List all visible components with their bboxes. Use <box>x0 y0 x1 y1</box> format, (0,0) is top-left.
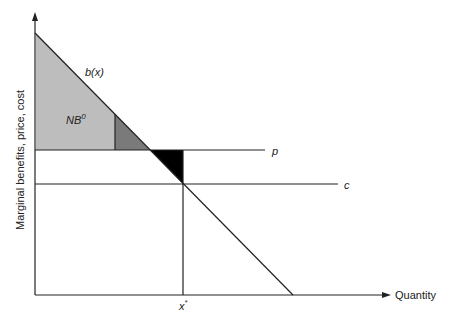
benefit-curve <box>35 33 293 295</box>
benefit-label: b(x) <box>85 66 104 78</box>
cost-label: c <box>344 179 350 191</box>
y-axis-arrow-icon <box>32 12 38 21</box>
diagram: b(x) NB0 p c x* Quantity Marginal benefi… <box>0 0 450 320</box>
x-axis-label: Quantity <box>395 289 436 301</box>
price-label: p <box>271 145 278 157</box>
x-star-label: x* <box>178 299 188 312</box>
y-axis-label: Marginal benefits, price, cost <box>14 90 26 230</box>
x-axis-arrow-icon <box>382 292 391 298</box>
net-benefit-area <box>36 33 115 150</box>
